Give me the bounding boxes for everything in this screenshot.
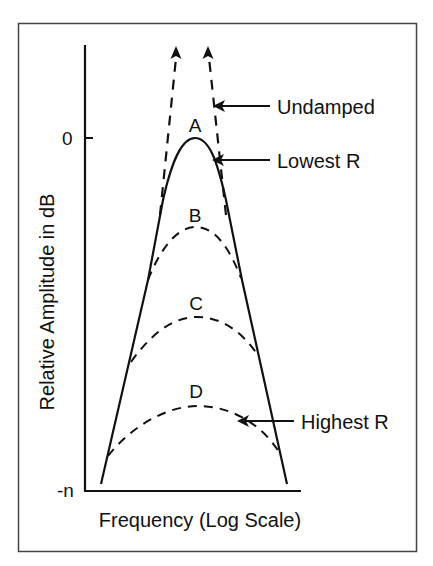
annotation-highest-r: Highest R	[301, 411, 389, 433]
annotation-undamped: Undamped	[277, 96, 375, 118]
curve-b	[148, 227, 241, 280]
curve-label-a: A	[189, 115, 202, 136]
y-tick-label-minus-n: -n	[57, 480, 74, 501]
curve-label-c: C	[189, 293, 203, 314]
annotation-arrow-highest-r	[237, 415, 294, 427]
curve-label-d: D	[189, 381, 203, 402]
curve-c	[131, 317, 259, 362]
annotation-arrow-undamped	[213, 100, 270, 112]
annotation-arrow-lowest-r	[212, 154, 270, 166]
annotation-lowest-r: Lowest R	[277, 150, 360, 172]
x-axis-label: Frequency (Log Scale)	[99, 509, 301, 531]
curve-label-b: B	[189, 205, 202, 226]
y-axis-label: Relative Amplitude in dB	[36, 194, 58, 411]
up-arrow-icon	[171, 46, 214, 59]
curve-d-highest-r	[108, 406, 279, 456]
y-tick-label-zero: 0	[62, 128, 73, 149]
resonance-chart: 0 -n Relative Amplitude in dB Frequency …	[0, 0, 433, 566]
curve-undamped	[160, 58, 226, 215]
